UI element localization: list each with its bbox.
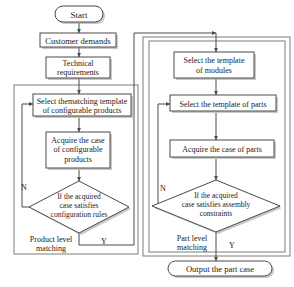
assembly-constraints-line2: case satisfies assembly	[182, 200, 251, 209]
select-parts-label: Select the template of parts	[179, 100, 266, 109]
acquire-configurable-case-line2: of configurable	[53, 145, 103, 154]
start-node: Start	[55, 6, 105, 24]
left-branch-yes-label: Y	[101, 237, 107, 246]
configuration-rules-line1: If the acquired	[57, 192, 101, 201]
right-branch-yes-label: Y	[229, 241, 235, 250]
select-modules-line1: Select the template	[184, 56, 245, 65]
acquire-parts-node: Acquire the case of parts	[170, 140, 276, 159]
select-matching-template-line2: of configurable products	[43, 106, 122, 115]
technical-requirements-node: Technical requirements	[46, 57, 112, 80]
acquire-configurable-case-line3: products	[64, 155, 92, 164]
customer-demands-label: Customer demands	[45, 36, 110, 46]
assembly-constraints-decision-node: If the acquired case satisfies assembly …	[152, 180, 282, 234]
configuration-rules-line2: case satisfies	[60, 201, 99, 210]
product-level-group-label-line2: matching	[36, 244, 66, 253]
select-matching-template-node: Select thematching template of configura…	[33, 94, 133, 118]
assembly-constraints-line1: If the acquired	[194, 191, 238, 200]
part-level-group-label-line1: Part level	[177, 234, 208, 243]
configuration-rules-line3: configuration rules	[51, 210, 108, 219]
select-matching-template-line1: Select thematching template	[37, 97, 128, 106]
product-level-group-label-line1: Product level	[30, 235, 73, 244]
acquire-configurable-case-line1: Acquire the case	[51, 136, 105, 145]
customer-demands-node: Customer demands	[40, 33, 118, 49]
output-part-case-node: Output the part case	[168, 261, 274, 278]
select-parts-node: Select the template of parts	[170, 95, 278, 113]
output-part-case-label: Output the part case	[186, 264, 254, 274]
select-modules-line2: of modules	[196, 66, 232, 75]
acquire-parts-label: Acquire the case of parts	[182, 145, 262, 154]
acquire-configurable-case-node: Acquire the case of configurable product…	[46, 132, 112, 170]
configuration-rules-decision-node: If the acquired case satisfies configura…	[29, 181, 131, 235]
technical-requirements-line2: requirements	[57, 68, 99, 77]
flowchart-container: Start Customer demands Technical require…	[0, 0, 294, 287]
technical-requirements-line1: Technical	[63, 59, 95, 68]
right-branch-no-label: N	[160, 184, 166, 193]
start-label: Start	[71, 10, 88, 20]
assembly-constraints-line3: constraints	[200, 209, 233, 218]
part-level-group-label-line2: matching	[177, 243, 207, 252]
flowchart-canvas: Start Customer demands Technical require…	[0, 0, 294, 287]
left-branch-no-label: N	[21, 183, 27, 192]
select-modules-node: Select the template of modules	[174, 52, 256, 80]
